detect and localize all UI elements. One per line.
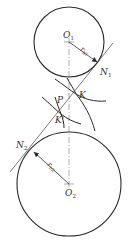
label-O1: O1 <box>63 30 74 41</box>
label-Kprime: K' <box>54 115 64 125</box>
label-P: P <box>56 95 64 105</box>
label-K: K <box>78 90 87 100</box>
label-N1: N1 <box>99 67 111 78</box>
gear-meshing-diagram: O1 rb1 N1 K P K' N2 rb2 O2 <box>0 0 129 251</box>
label-rb1: rb1 <box>79 45 91 57</box>
line-of-action <box>10 43 113 172</box>
label-rb2: rb2 <box>45 160 58 172</box>
label-N2: N2 <box>15 140 27 151</box>
label-O2: O2 <box>65 188 76 199</box>
diagram-canvas: O1 rb1 N1 K P K' N2 rb2 O2 <box>0 0 129 251</box>
involute-curve-2-at-K <box>67 78 95 131</box>
